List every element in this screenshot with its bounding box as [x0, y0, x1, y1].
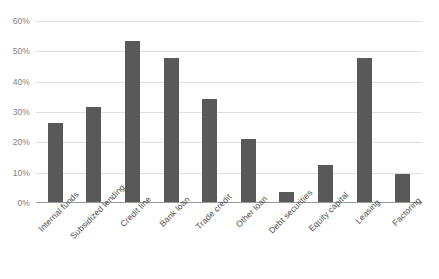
bar: [395, 174, 410, 203]
bar-slot: [345, 21, 384, 203]
x-axis-tick: Trade credit: [190, 204, 229, 279]
x-axis-tick: Factoring: [383, 204, 422, 279]
bar-slot: [229, 21, 268, 203]
y-axis-tick-label: 60%: [13, 16, 30, 26]
bar-slot: [268, 21, 307, 203]
bar-slot: [306, 21, 345, 203]
bar: [318, 165, 333, 203]
bar-slot: [75, 21, 114, 203]
x-axis-tick: Subsidized lending: [75, 204, 114, 279]
bar: [357, 58, 372, 203]
bar-slot: [383, 21, 422, 203]
bar-slot: [190, 21, 229, 203]
bar: [86, 107, 101, 203]
x-axis-tick: Bank loan: [152, 204, 191, 279]
x-axis-tick: Equity capital: [306, 204, 345, 279]
y-axis-tick-label: 30%: [13, 107, 30, 117]
bar-slot: [152, 21, 191, 203]
x-axis-tick: Other loan: [229, 204, 268, 279]
bar-series: [36, 21, 422, 203]
x-axis: Internal fundsSubsidized lendingCredit l…: [36, 204, 422, 279]
bar: [241, 139, 256, 203]
y-axis-tick-label: 50%: [13, 46, 30, 56]
y-axis-tick-label: 20%: [13, 137, 30, 147]
x-axis-tick: Debt securities: [268, 204, 307, 279]
bar: [164, 58, 179, 203]
x-axis-tick: Internal funds: [36, 204, 75, 279]
x-axis-tick: Leasing: [345, 204, 384, 279]
bar: [202, 99, 217, 203]
bar-slot: [113, 21, 152, 203]
x-axis-tick: Credit line: [113, 204, 152, 279]
plot-area: [36, 21, 422, 203]
bar: [48, 123, 63, 203]
y-axis: 0%10%20%30%40%50%60%: [0, 0, 34, 279]
y-axis-tick-label: 10%: [13, 168, 30, 178]
bar-chart: 0%10%20%30%40%50%60% Internal fundsSubsi…: [0, 0, 439, 279]
bar: [125, 41, 140, 203]
bar-slot: [36, 21, 75, 203]
y-axis-tick-label: 0%: [18, 198, 31, 208]
y-axis-tick-label: 40%: [13, 77, 30, 87]
